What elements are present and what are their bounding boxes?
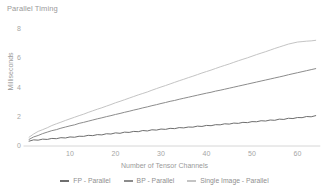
series-line xyxy=(29,40,316,137)
legend-line-icon xyxy=(124,180,133,182)
legend-item[interactable]: Single Image - Parallel xyxy=(187,176,268,185)
legend-item-label: Single Image - Parallel xyxy=(200,176,268,185)
legend-item-label: FP - Parallel xyxy=(73,176,110,185)
parallel-timing-chart: Parallel Timing Milliseconds Number of T… xyxy=(0,0,329,195)
series-line xyxy=(29,116,316,142)
plot-area xyxy=(0,0,329,195)
legend-item[interactable]: BP - Parallel xyxy=(124,176,175,185)
legend-line-icon xyxy=(60,180,69,182)
series-lines xyxy=(29,40,316,141)
legend-item-label: BP - Parallel xyxy=(137,176,175,185)
legend-item[interactable]: FP - Parallel xyxy=(60,176,110,185)
chart-legend: FP - ParallelBP - ParallelSingle Image -… xyxy=(0,176,329,185)
legend-line-icon xyxy=(187,180,196,182)
